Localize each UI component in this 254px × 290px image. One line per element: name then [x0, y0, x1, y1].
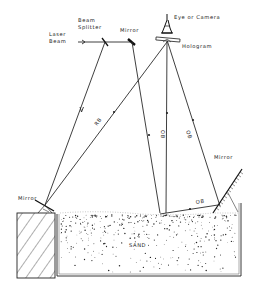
sand-box: [57, 203, 241, 276]
holography-diagram: Laser Beam Beam Splitter Mirror Eye or C…: [0, 0, 254, 290]
arrow-icon: [166, 112, 168, 114]
svg-text:Laser: Laser: [49, 31, 66, 37]
ob-bottom-label: OB: [195, 198, 205, 205]
hologram-label: Hologram: [182, 43, 212, 50]
svg-text:Beam: Beam: [49, 38, 66, 44]
arrow-icon: [189, 208, 191, 210]
ob-center-beam: [166, 40, 167, 213]
ob-center-label: OB: [160, 130, 166, 139]
arrow-icon: [192, 119, 194, 121]
ob-right-label: OB: [185, 129, 193, 139]
top-mirror-label: Mirror: [120, 27, 139, 33]
right-mirror-icon: [213, 169, 243, 213]
svg-text:Splitter: Splitter: [78, 24, 102, 31]
rb-label: RB: [93, 116, 103, 126]
eye-camera-icon: [161, 14, 173, 33]
hologram-icon: [156, 37, 180, 42]
left-mirror-label: Mirror: [18, 195, 37, 201]
support-block: [17, 213, 55, 278]
laser-beam-label: Laser Beam: [49, 31, 66, 44]
object-illumination-beam: [132, 42, 160, 213]
arrow-icon: [148, 134, 150, 136]
sand-texture: [61, 214, 237, 272]
right-mirror-label: Mirror: [214, 154, 233, 160]
rb-beam: [45, 42, 167, 205]
arrow-icon: [80, 107, 84, 112]
ob-right-beam: [167, 40, 220, 206]
svg-text:Beam: Beam: [78, 17, 95, 23]
arrow-icon: [113, 111, 115, 113]
sand-label: SAND: [129, 242, 146, 248]
ob-bottom-beam: [160, 205, 218, 214]
beam-splitter-label: Beam Splitter: [78, 17, 102, 31]
eye-camera-label: Eye or Camera: [174, 14, 220, 21]
